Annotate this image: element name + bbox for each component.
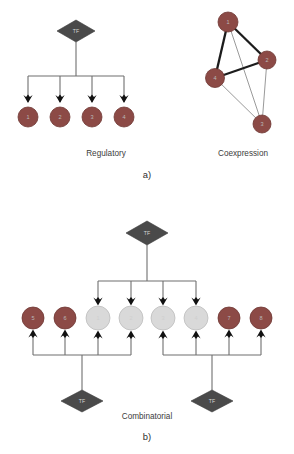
coexpr-node-4-shape (206, 69, 225, 88)
combinatorial-node-1[interactable]: 1 (86, 306, 110, 330)
figure-root: 1234TFRegulatory1234Coexpressiona) 56123… (0, 0, 294, 454)
regulatory-node-3[interactable]: 3 (82, 107, 102, 127)
combinatorial-node-7-shape (218, 307, 240, 329)
regulatory-node-3-shape (82, 107, 102, 127)
combinatorial-node-2-shape (119, 306, 143, 330)
regulatory-node-4-shape (114, 107, 134, 127)
regulatory-caption: Regulatory (86, 149, 127, 158)
coexpr-node-1-shape (218, 12, 238, 32)
combinatorial-node-7[interactable]: 7 (218, 307, 240, 329)
combinatorial-node-5[interactable]: 5 (22, 307, 44, 329)
combinatorial-node-4[interactable]: 4 (184, 306, 208, 330)
coexpression-caption: Coexpression (218, 149, 269, 158)
combinatorial-node-1-shape (86, 306, 110, 330)
combinatorial-node-3-shape (151, 306, 175, 330)
combinatorial-node-8-shape (250, 307, 272, 329)
network-topology-figure: 1234TFRegulatory1234Coexpressiona) 56123… (0, 0, 294, 454)
regulatory-node-2-shape (50, 107, 70, 127)
combinatorial-node-6-shape (54, 307, 76, 329)
panel-a-label: a) (143, 169, 151, 180)
combinatorial-node-8[interactable]: 8 (250, 307, 272, 329)
panel-b-label: b) (143, 431, 151, 442)
combinatorial-node-3[interactable]: 3 (151, 306, 175, 330)
regulatory-node-4[interactable]: 4 (114, 107, 134, 127)
combinatorial-caption: Combinatorial (122, 412, 173, 421)
combinatorial-node-4-shape (184, 306, 208, 330)
coexpr-node-1[interactable]: 1 (218, 12, 238, 32)
regulatory-node-1-shape (18, 107, 38, 127)
regulatory-node-1[interactable]: 1 (18, 107, 38, 127)
combinatorial-node-5-shape (22, 307, 44, 329)
coexpr-node-2[interactable]: 2 (258, 51, 276, 69)
coexpr-node-2-shape (258, 51, 276, 69)
coexpr-node-3[interactable]: 3 (253, 115, 271, 133)
coexpr-node-3-shape (253, 115, 271, 133)
regulatory-node-2[interactable]: 2 (50, 107, 70, 127)
coexpr-node-4[interactable]: 4 (206, 69, 225, 88)
combinatorial-node-2[interactable]: 2 (119, 306, 143, 330)
combinatorial-node-6[interactable]: 6 (54, 307, 76, 329)
